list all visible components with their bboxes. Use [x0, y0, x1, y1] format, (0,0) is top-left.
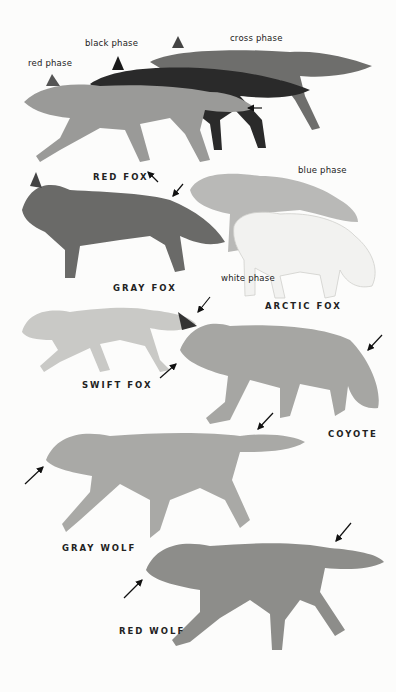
blue-phase-label: blue phase — [298, 165, 347, 175]
species-label-gray-fox: GRAY FOX — [113, 283, 177, 293]
arrow-icon — [148, 172, 158, 182]
arrow-icon — [25, 467, 43, 484]
swift-fox-illustration — [22, 308, 197, 372]
arrow-icon — [258, 413, 273, 429]
species-label-red-fox: RED FOX — [93, 172, 149, 182]
canid-illustrations — [0, 0, 396, 692]
species-label-red-wolf: RED WOLF — [119, 626, 185, 636]
white-phase-arctic-fox-illustration — [234, 212, 376, 298]
species-label-swift-fox: SWIFT FOX — [82, 380, 153, 390]
species-label-arctic-fox: ARCTIC FOX — [265, 301, 342, 311]
species-label-gray-wolf: GRAY WOLF — [62, 543, 136, 553]
arrow-icon — [368, 335, 382, 350]
white-phase-label: white phase — [221, 273, 275, 283]
gray-wolf-illustration — [46, 433, 305, 538]
black-phase-label: black phase — [85, 38, 138, 48]
arrow-icon — [124, 580, 142, 598]
canid-illustration-plate: red phase black phase cross phase blue p… — [0, 0, 396, 692]
red-phase-label: red phase — [28, 58, 72, 68]
coyote-illustration — [180, 324, 379, 424]
arrow-icon — [173, 184, 183, 196]
species-label-coyote: COYOTE — [328, 429, 378, 439]
arrow-icon — [336, 523, 351, 541]
cross-phase-label: cross phase — [230, 33, 283, 43]
arrow-icon — [198, 297, 210, 312]
